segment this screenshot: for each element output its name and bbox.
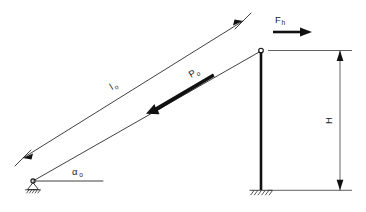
height-label: H [323, 117, 334, 124]
pin-support-hatching [27, 190, 41, 193]
dimension-line-l0-body [23, 21, 243, 158]
fixed-support-hatching [251, 191, 273, 196]
horizontal-force-label-group: F h [275, 14, 285, 26]
dimension-h-arrowhead-top [337, 51, 344, 62]
diagram-canvas: P o l o α [0, 0, 366, 212]
horizontal-force-label-subscript: h [281, 19, 285, 26]
dimension-h-arrowhead-bottom [337, 180, 344, 191]
inclined-bar-line [33, 51, 261, 181]
top-joint [259, 48, 264, 53]
axial-force-arrow [146, 74, 215, 115]
fixed-support [250, 190, 273, 195]
dimension-line-l0 [15, 13, 251, 166]
horizontal-force-label: F [275, 14, 281, 25]
angle-label: α [72, 166, 78, 177]
dimension-line-h [268, 51, 352, 191]
horizontal-force-arrowhead [300, 28, 312, 37]
length-label-group: l o [107, 78, 120, 92]
engineering-diagram: P o l o α [0, 0, 366, 212]
angle-label-group: α o [72, 166, 83, 178]
angle-label-subscript: o [79, 171, 83, 178]
axial-force-label-group: P o [187, 65, 202, 81]
horizontal-force-arrow [273, 28, 312, 37]
inclined-bar [33, 51, 261, 181]
height-label-group: H [323, 117, 334, 124]
axial-force-arrow-shape [146, 74, 215, 115]
